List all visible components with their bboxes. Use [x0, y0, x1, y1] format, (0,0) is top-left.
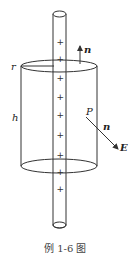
svg-text:+: + [57, 130, 65, 140]
point-p-label: P [85, 106, 93, 117]
svg-text:+: + [57, 150, 65, 160]
top-normal-label: n [84, 44, 91, 55]
side-normal-label: n [103, 121, 110, 132]
svg-text:+: + [57, 184, 65, 194]
svg-text:+: + [57, 73, 65, 83]
svg-text:+: + [57, 110, 65, 120]
field-arrow-icon [86, 117, 118, 149]
svg-text:+: + [57, 37, 65, 47]
charge-signs: + + + + + + + + + [57, 37, 65, 194]
figure-caption: 例 1-6 图 [44, 242, 86, 254]
height-label: h [12, 112, 18, 123]
svg-text:+: + [57, 54, 65, 64]
radius-label: r [11, 61, 17, 72]
svg-text:+: + [57, 167, 65, 177]
field-e-label: E [119, 142, 128, 153]
svg-text:+: + [57, 92, 65, 102]
gauss-cylinder-diagram: + + + + + + + + + r h n P n E 例 1-6 图 [0, 0, 139, 261]
